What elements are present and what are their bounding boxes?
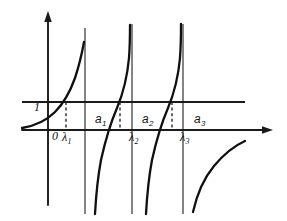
asymptote-label-a2: a2 bbox=[142, 113, 153, 127]
root-label-lambda1-subscript: 1 bbox=[67, 137, 71, 146]
asymptote-label-a3-symbol: a bbox=[194, 112, 201, 126]
x-axis-arrow-icon bbox=[262, 126, 273, 133]
asymptote-label-a1-symbol: a bbox=[95, 112, 102, 126]
curve-branch-0 bbox=[22, 42, 84, 128]
root-label-lambda2: λ2 bbox=[129, 131, 139, 145]
axis-label-one: 1 bbox=[34, 101, 40, 113]
root-label-lambda1: λ1 bbox=[62, 131, 72, 145]
root-label-lambda2-subscript: 2 bbox=[134, 137, 138, 146]
asymptote-label-a3-subscript: 3 bbox=[201, 119, 206, 128]
function-graph-figure: 1 0 λ1 λ2 λ3 a1 a2 a3 bbox=[0, 0, 287, 221]
root-label-lambda3: λ3 bbox=[180, 131, 190, 145]
asymptote-label-a2-symbol: a bbox=[142, 112, 149, 126]
asymptote-label-a3: a3 bbox=[194, 113, 205, 127]
graph-canvas bbox=[0, 0, 287, 221]
asymptote-label-a1-subscript: 1 bbox=[102, 119, 107, 128]
curve-branch-3 bbox=[193, 141, 245, 212]
y-axis-arrow-icon bbox=[44, 11, 52, 22]
asymptote-label-a2-subscript: 2 bbox=[149, 119, 154, 128]
asymptote-label-a1: a1 bbox=[95, 113, 106, 127]
axis-label-origin: 0 bbox=[52, 130, 58, 142]
root-label-lambda3-subscript: 3 bbox=[185, 137, 189, 146]
